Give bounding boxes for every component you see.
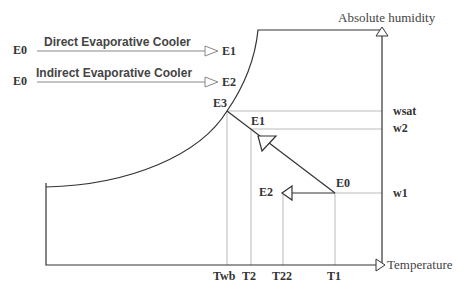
label-twb: Twb (213, 269, 236, 283)
x-axis-arrow-icon (376, 259, 385, 271)
legend-direct-end: E1 (222, 44, 236, 58)
label-t2: T2 (242, 269, 256, 283)
point-e1: E1 (251, 114, 265, 128)
legend-direct: E0 Direct Evaporative Cooler E1 (13, 35, 236, 58)
direct-process-line (227, 111, 335, 193)
guide-lines (227, 111, 382, 265)
point-e0: E0 (336, 176, 350, 190)
legend-direct-start: E0 (13, 43, 27, 57)
psychrometric-diagram: E0 Direct Evaporative Cooler E1 E0 Indir… (0, 0, 465, 294)
legend-indirect-start: E0 (13, 74, 27, 88)
legend-indirect: E0 Indirect Evaporative Cooler E2 (13, 66, 236, 89)
point-e2: E2 (259, 185, 273, 199)
x-axis-title: Temperature (387, 257, 453, 272)
y-axis-title: Absolute humidity (338, 10, 436, 25)
e1-arrow-icon (258, 136, 276, 151)
label-w2: w2 (393, 121, 408, 135)
legend-indirect-end: E2 (222, 75, 236, 89)
arrow-icon (205, 46, 218, 56)
label-t22: T22 (272, 269, 292, 283)
point-e3: E3 (213, 96, 227, 110)
arrow-icon (205, 77, 218, 87)
legend-indirect-label: Indirect Evaporative Cooler (36, 66, 192, 80)
y-axis-arrow-icon (376, 27, 388, 36)
label-wsat: wsat (393, 104, 416, 118)
x-axis (46, 183, 380, 265)
legend-direct-label: Direct Evaporative Cooler (44, 35, 191, 49)
label-w1: w1 (393, 186, 408, 200)
label-t1: T1 (327, 269, 341, 283)
